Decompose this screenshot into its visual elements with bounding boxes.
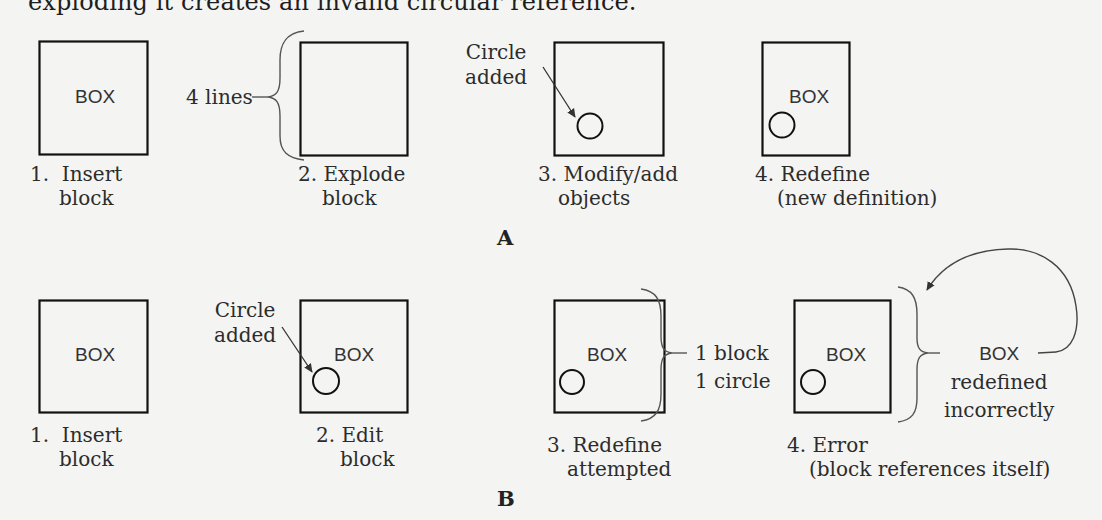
panel-b-step3-subtitle: attempted [547, 457, 671, 481]
panel-a-step2-brace [268, 31, 304, 160]
panel-b-step1-subtitle: block [30, 447, 114, 471]
panel-b-step1-caption: 1. Insert block [30, 423, 122, 471]
panel-b-step4-brace-note-line2: redefined [951, 370, 1048, 394]
panel-a-step4-number: 4. [755, 162, 774, 186]
panel-b-step2-callout-line2: added [214, 323, 276, 347]
panel-a-step1-caption: 1. Insert block [30, 162, 122, 210]
panel-b-step2-subtitle: block [316, 447, 395, 471]
panel-b-step1-title: Insert [62, 423, 122, 447]
panel-b-step2-title: Edit [341, 423, 383, 447]
panel-a-step4-title: Redefine [780, 162, 870, 186]
panel-b-step3-brace-note-line2: 1 circle [695, 369, 771, 393]
panel-a-step3-subtitle: objects [538, 186, 630, 210]
panel-a-step2-subtitle: block [298, 186, 377, 210]
panel-a-step1-subtitle: block [30, 186, 114, 210]
panel-a-step1-box-label: BOX [75, 86, 115, 108]
panel-a-step1-title: Insert [62, 162, 122, 186]
panel-a-step3-circle [578, 114, 603, 139]
panel-a-step2-brace-note: 4 lines [186, 85, 253, 109]
panel-b-label: B [497, 486, 515, 511]
panel-a-step4-circle [770, 113, 795, 138]
panel-b-step2-caption: 2. Edit block [316, 423, 395, 471]
panel-a-step3-title: Modify/add [563, 162, 678, 186]
panel-a-step4-subtitle: (new definition) [755, 186, 937, 210]
panel-b-step3-number: 3. [547, 433, 566, 457]
panel-b-step3-box-label: BOX [587, 344, 627, 366]
panel-a-step2-title: Explode [323, 162, 405, 186]
panel-b-step3-circle [560, 370, 584, 394]
panel-b-step3-brace-note-line1: 1 block [695, 341, 769, 365]
panel-b-step4-brace-note-line3: incorrectly [944, 398, 1054, 422]
panel-a-label: A [497, 225, 513, 250]
panel-b-step2-callout: Circle added [214, 298, 276, 348]
panel-b-step1-number: 1. [30, 423, 49, 447]
panel-b-step4-subtitle: (block references itself) [787, 457, 1050, 481]
panel-b-step3-title: Redefine [572, 433, 662, 457]
panel-b-step4-circle [801, 370, 825, 394]
panel-b-step2-callout-line1: Circle [215, 298, 276, 322]
panel-a-step1-number: 1. [30, 162, 49, 186]
panel-a-step3-caption: 3. Modify/add objects [538, 162, 678, 210]
panel-a-step2-caption: 2. Explode block [298, 162, 405, 210]
panel-a-step3-number: 3. [538, 162, 557, 186]
panel-b-step1-box-label: BOX [75, 344, 115, 366]
panel-a-step3-callout: Circle added [465, 40, 527, 90]
panel-b-step2-callout-arrow [282, 327, 312, 372]
panel-b-step4-box-label: BOX [826, 344, 866, 366]
panel-b-step3-brace-note: 1 block 1 circle [695, 339, 771, 395]
panel-b-step2-box-label: BOX [334, 344, 374, 366]
panel-a-step3-callout-arrow [543, 67, 575, 117]
panel-b-step3-caption: 3. Redefine attempted [547, 433, 671, 481]
panel-b-step3-brace [641, 289, 672, 421]
panel-a-step2-number: 2. [298, 162, 317, 186]
panel-b-step4-brace [898, 287, 928, 422]
panel-a-step3-box [555, 43, 664, 156]
panel-b-step4-brace-note-line1: BOX [979, 343, 1019, 364]
panel-b-step4-brace-note: BOX redefined incorrectly [944, 339, 1054, 424]
panel-a-step2-box [301, 43, 408, 156]
panel-a-step3-callout-line1: Circle [466, 40, 527, 64]
panel-b-step2-circle [313, 368, 339, 394]
panel-b-step4-number: 4. [787, 433, 806, 457]
panel-a-step3-callout-line2: added [465, 65, 527, 89]
panel-b-step4-caption: 4. Error (block references itself) [787, 433, 1050, 481]
panel-a-step4-caption: 4. Redefine (new definition) [755, 162, 937, 210]
panel-b-step4-self-reference-arrow [927, 249, 1077, 352]
panel-b-step2-number: 2. [316, 423, 335, 447]
panel-a-step4-box-label: BOX [789, 86, 829, 108]
panel-b-step4-title: Error [812, 433, 867, 457]
